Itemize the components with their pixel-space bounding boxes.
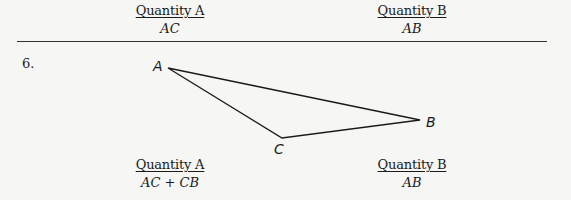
quantity-b-value: AB xyxy=(403,175,422,190)
quantity-a-value: AC + CB xyxy=(141,175,199,190)
triangle-figure: A B C xyxy=(0,0,571,200)
quantity-a-label: Quantity A xyxy=(136,157,205,172)
quantity-b-label: Quantity B xyxy=(378,157,447,172)
triangle-abc xyxy=(168,68,420,138)
vertex-label-a: A xyxy=(152,58,163,74)
vertex-label-c: C xyxy=(274,141,284,157)
vertex-label-b: B xyxy=(426,114,436,130)
